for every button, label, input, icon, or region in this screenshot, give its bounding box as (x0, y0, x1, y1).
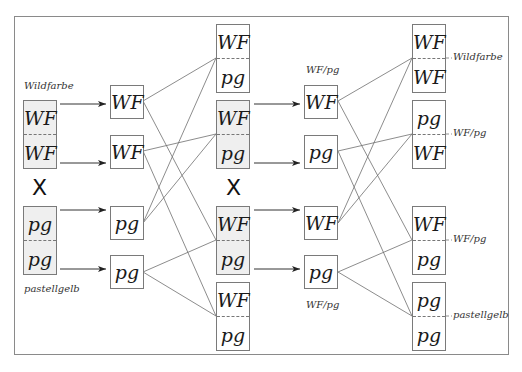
allele: WF (413, 33, 445, 52)
divider (24, 240, 56, 241)
allele: WF (305, 214, 337, 233)
parent-top-label: Wildfarbe (24, 80, 74, 91)
f1-box: WF pg (216, 24, 250, 93)
allele: pg (305, 263, 337, 282)
cross-symbol: X (226, 177, 241, 199)
allele: pg (111, 263, 143, 282)
divider (413, 58, 445, 59)
allele: WF (217, 215, 249, 234)
divider (413, 134, 445, 135)
allele: pg (24, 215, 56, 234)
divider (217, 316, 249, 317)
allele: pg (413, 250, 445, 269)
allele: pg (217, 144, 249, 163)
f2-box: pg WF (412, 100, 446, 169)
allele: pg (24, 250, 56, 269)
allele: WF (217, 109, 249, 128)
allele: pg (217, 326, 249, 345)
f2-box: WF pg (412, 206, 446, 275)
gamete-box: WF (304, 85, 338, 119)
f1-box-selected: WF pg (216, 100, 250, 169)
allele: pg (217, 250, 249, 269)
divider (413, 316, 445, 317)
allele: pg (111, 214, 143, 233)
allele: WF (305, 93, 337, 112)
gamete-box: pg (110, 206, 144, 240)
f2-label: WF/pg (453, 127, 486, 138)
f2-label: WF/pg (453, 233, 486, 244)
allele: WF (24, 144, 56, 163)
allele: WF (217, 33, 249, 52)
f1-box: WF pg (216, 282, 250, 351)
divider (413, 240, 445, 241)
allele: WF (111, 143, 143, 162)
f2-box: WF WF (412, 24, 446, 93)
allele: WF (217, 291, 249, 310)
gamete-box: WF (110, 135, 144, 169)
parent-top-box: WF WF (23, 100, 57, 169)
parent-bottom-label: pastellgelb (24, 283, 80, 294)
divider (217, 134, 249, 135)
allele: WF (413, 68, 445, 87)
gamete-box: pg (304, 255, 338, 289)
allele: WF (413, 215, 445, 234)
gamete-box: pg (110, 255, 144, 289)
gamete-box: WF (304, 206, 338, 240)
allele: pg (413, 326, 445, 345)
f2-label: pastellgelb (453, 309, 509, 320)
allele: pg (305, 143, 337, 162)
parent-bottom-box: pg pg (23, 206, 57, 275)
allele: WF (24, 109, 56, 128)
allele: pg (217, 68, 249, 87)
gamete-box: WF (110, 85, 144, 119)
f2-label: Wildfarbe (453, 51, 503, 62)
allele: WF (111, 93, 143, 112)
cross-symbol: X (32, 177, 47, 199)
f2-box: pg pg (412, 282, 446, 351)
f1-box-selected: WF pg (216, 206, 250, 275)
gamete-box: pg (304, 135, 338, 169)
divider (24, 134, 56, 135)
gametes-f1-label-top: WF/pg (306, 64, 339, 75)
allele: pg (413, 291, 445, 310)
divider (217, 58, 249, 59)
gametes-f1-label-bottom: WF/pg (306, 299, 339, 310)
allele: WF (413, 144, 445, 163)
divider (217, 240, 249, 241)
allele: pg (413, 109, 445, 128)
